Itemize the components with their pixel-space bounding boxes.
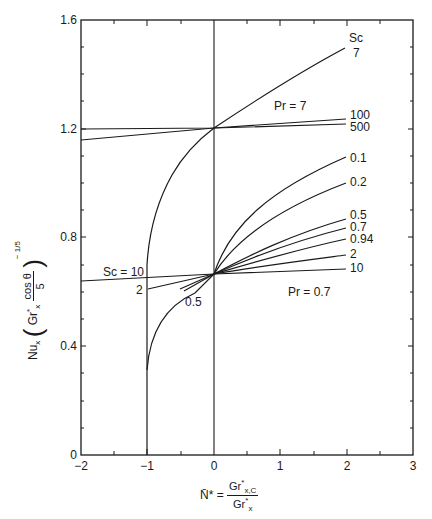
ylabel-cos: cos θ: [21, 271, 34, 301]
x-tick-label: 3: [410, 459, 417, 473]
curve-pr07-sc094: [180, 239, 346, 289]
ylabel-fraction: cos θ 5: [21, 271, 46, 301]
label-sc7: 7: [353, 46, 360, 60]
y-tick-label: 0: [70, 448, 77, 462]
label-sc10: 10: [350, 261, 364, 275]
curve-pr7-sc7: [147, 48, 345, 455]
chart-figure: −2 −1 0 1 2 3 0 0.4 0.8 1.2 1.6 Sc 7 Pr …: [0, 0, 432, 519]
x-tick-label: −1: [140, 459, 154, 473]
label-sc05-left: 0.5: [185, 295, 202, 309]
label-sc02: 0.2: [350, 175, 367, 189]
xlabel-den-sub: x: [248, 504, 252, 513]
ylabel-nu: Nu: [26, 345, 40, 360]
ylabel-gr-sup: *: [25, 309, 34, 312]
label-sc2-left: 2: [136, 283, 143, 297]
label-sc500: 500: [350, 120, 370, 134]
xlabel-lhs: N̄* =: [200, 488, 224, 502]
y-tick-label: 1.2: [60, 122, 77, 136]
label-pr07: Pr = 0.7: [288, 285, 331, 299]
x-tick-labels: −2 −1 0 1 2 3: [74, 459, 417, 473]
y-tick-label: 0.4: [60, 339, 77, 353]
label-sc01: 0.1: [350, 151, 367, 165]
xlabel-fraction: Gr*x,C Gr*x: [227, 478, 258, 513]
ylabel-nu-sub: x: [33, 341, 42, 345]
ylabel-five: 5: [34, 271, 46, 301]
y-tick-label: 1.6: [60, 13, 77, 27]
x-tick-label: 2: [344, 459, 351, 473]
label-sc10-left: Sc = 10: [103, 265, 144, 279]
ylabel-gr-sub: x: [33, 305, 42, 309]
label-sc094: 0.94: [350, 232, 374, 246]
label-sc-header: Sc: [349, 31, 363, 45]
y-tick-label: 0.8: [60, 230, 77, 244]
x-tick-label: 1: [277, 459, 284, 473]
y-tick-labels: 0 0.4 0.8 1.2 1.6: [60, 13, 77, 462]
curve-pr07-sc02: [214, 183, 346, 274]
x-tick-label: 0: [211, 459, 218, 473]
label-sc2: 2: [350, 247, 357, 261]
ylabel-gr: Gr: [26, 312, 40, 325]
xlabel-num-sub: x,C: [244, 486, 256, 495]
curve-pr07-sc01: [214, 157, 346, 274]
label-pr7: Pr = 7: [274, 99, 307, 113]
x-axis-label: N̄* = Gr*x,C Gr*x: [200, 478, 258, 513]
ylabel-exponent: − 1/5: [13, 241, 22, 259]
y-axis-label: Nux ( Gr*x cos θ 5 )− 1/5: [6, 160, 46, 360]
xlabel-num: Gr: [229, 480, 241, 492]
xlabel-den: Gr: [233, 498, 245, 510]
